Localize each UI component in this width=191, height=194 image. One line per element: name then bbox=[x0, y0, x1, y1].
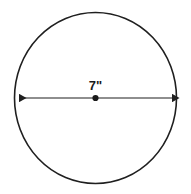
figure-canvas: 7" bbox=[0, 0, 191, 194]
diameter-label: 7" bbox=[89, 78, 102, 93]
circle-diagram-figure: 7" bbox=[0, 0, 191, 194]
center-point-dot bbox=[92, 95, 98, 101]
